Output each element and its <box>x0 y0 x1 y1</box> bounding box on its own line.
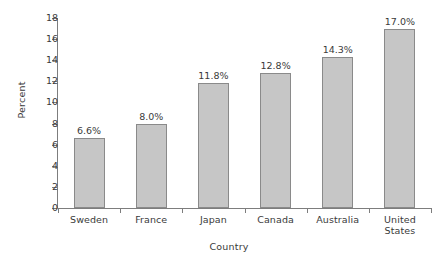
y-axis-tick-label: 0 <box>0 203 58 213</box>
y-axis-tick-label-text: 18 <box>36 13 58 23</box>
bar-group: 12.8% <box>260 18 291 208</box>
bar-value-label: 11.8% <box>198 70 228 81</box>
y-axis-tick-label-text: 2 <box>36 182 58 192</box>
y-axis-tick-label-text: 6 <box>36 140 58 150</box>
x-axis-tick <box>182 208 183 213</box>
y-axis-tick-label: 14 <box>0 55 58 65</box>
y-axis-tick-label: 12 <box>0 76 58 86</box>
x-axis-tick <box>369 208 370 213</box>
bar-group: 17.0% <box>384 18 415 208</box>
bar-value-label: 6.6% <box>77 125 101 136</box>
y-axis-tick-label-text: 16 <box>36 34 58 44</box>
x-axis-tick <box>307 208 308 213</box>
x-axis-category-label-line: Australia <box>307 214 369 225</box>
y-axis-tick-label-text: 10 <box>36 97 58 107</box>
bar-group: 6.6% <box>74 18 105 208</box>
x-axis-category-label: France <box>120 214 182 225</box>
bar-chart: 024681012141618 Percent 6.6%8.0%11.8%12.… <box>0 0 439 263</box>
bar-value-label: 14.3% <box>323 44 353 55</box>
x-axis-tick <box>245 208 246 213</box>
y-axis-title: Percent <box>17 70 27 130</box>
y-axis-tick-label: 4 <box>0 161 58 171</box>
bar <box>322 57 353 208</box>
y-axis-tick-label: 8 <box>0 119 58 129</box>
bar-group: 8.0% <box>136 18 167 208</box>
bar <box>198 83 229 208</box>
bar <box>136 124 167 208</box>
x-axis-category-label: Sweden <box>58 214 120 225</box>
bar-value-label: 12.8% <box>260 60 290 71</box>
x-axis-category-label-line: France <box>120 214 182 225</box>
bar-group: 14.3% <box>322 18 353 208</box>
y-axis-tick-label: 6 <box>0 140 58 150</box>
bar-group: 11.8% <box>198 18 229 208</box>
x-axis-title: Country <box>57 241 401 252</box>
x-axis-category-label-line: Canada <box>245 214 307 225</box>
y-axis-tick-label: 16 <box>0 34 58 44</box>
bar <box>384 29 415 208</box>
plot-area: 6.6%8.0%11.8%12.8%14.3%17.0% <box>58 18 431 208</box>
x-axis-category-label: Japan <box>182 214 244 225</box>
x-axis-tick <box>58 208 59 213</box>
x-axis-category-label-line: Sweden <box>58 214 120 225</box>
bar <box>260 73 291 208</box>
x-axis-category-label-line: United <box>369 214 431 225</box>
x-axis-category-label: Canada <box>245 214 307 225</box>
x-axis-category-label-line: States <box>369 225 431 236</box>
x-axis-tick <box>431 208 432 213</box>
y-axis-tick-label-text: 12 <box>36 76 58 86</box>
y-axis-tick-label: 18 <box>0 13 58 23</box>
y-axis-tick-label-text: 14 <box>36 55 58 65</box>
x-axis-category-label: Australia <box>307 214 369 225</box>
x-axis-category-label: UnitedStates <box>369 214 431 236</box>
y-axis-tick-label: 10 <box>0 97 58 107</box>
x-axis-tick <box>120 208 121 213</box>
y-axis-tick-label: 2 <box>0 182 58 192</box>
x-axis-category-label-line: Japan <box>182 214 244 225</box>
bar <box>74 138 105 208</box>
bar-value-label: 17.0% <box>385 16 415 27</box>
y-axis-tick-label-text: 4 <box>36 161 58 171</box>
y-axis-tick-label-text: 0 <box>36 203 58 213</box>
bar-value-label: 8.0% <box>139 111 163 122</box>
y-axis-tick-label-text: 8 <box>36 119 58 129</box>
